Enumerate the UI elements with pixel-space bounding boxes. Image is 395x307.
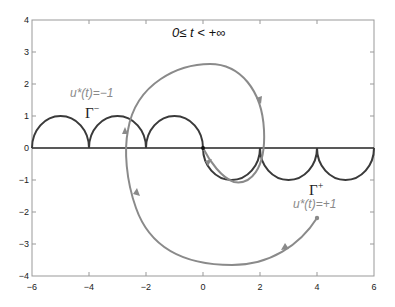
- x-tick-labels: −6 −4 −2 0 2 4 6: [27, 282, 377, 292]
- gamma-plus-superscript: +: [318, 180, 324, 191]
- y-tick-label: 4: [24, 15, 29, 25]
- x-tick-label: 6: [371, 282, 376, 292]
- phase-plane-chart: −6 −4 −2 0 2 4 6 4 3 2 1 0 −1 −2 −3 −4 0…: [0, 0, 395, 307]
- x-tick-label: −2: [141, 282, 151, 292]
- u-minus-label: u*(t)=−1: [70, 86, 113, 100]
- gamma-minus-symbol: Γ: [85, 105, 94, 121]
- y-tick-label: −3: [19, 239, 29, 249]
- y-tick-labels: 4 3 2 1 0 −1 −2 −3 −4: [19, 15, 29, 281]
- x-tick-label: 4: [314, 282, 319, 292]
- y-tick-label: 0: [24, 143, 29, 153]
- y-tick-label: −4: [19, 271, 29, 281]
- y-tick-label: 2: [24, 79, 29, 89]
- u-plus-label: u*(t)=+1: [293, 197, 336, 211]
- y-tick-label: 3: [24, 47, 29, 57]
- x-tick-label: 2: [257, 282, 262, 292]
- chart-title: 0≤ t < +∞: [172, 25, 225, 40]
- y-tick-label: −1: [19, 175, 29, 185]
- gamma-minus-superscript: −: [94, 103, 100, 114]
- gamma-plus-symbol: Γ: [309, 182, 318, 198]
- origin-point: [201, 146, 205, 150]
- y-tick-label: 1: [24, 111, 29, 121]
- x-tick-label: −6: [27, 282, 37, 292]
- x-tick-label: 0: [200, 282, 205, 292]
- x-tick-label: −4: [84, 282, 94, 292]
- y-tick-label: −2: [19, 207, 29, 217]
- trajectory-start-point: [315, 216, 319, 220]
